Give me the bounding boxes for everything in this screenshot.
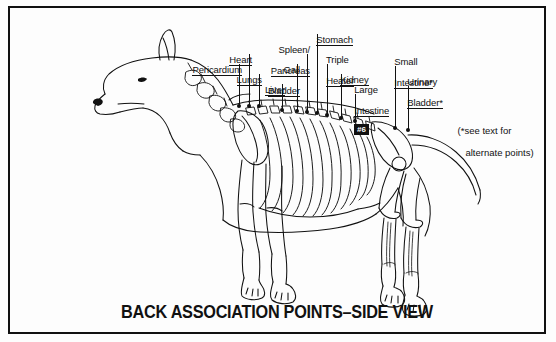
marker-6-badge: #6: [354, 124, 369, 135]
acupoint-dot: [339, 116, 343, 120]
acupoint-dot: [237, 104, 241, 108]
figure-title: BACK ASSOCIATION POINTS–SIDE VIEW: [29, 302, 526, 323]
acupoint-dot: [393, 126, 397, 130]
acupoint-dot: [295, 109, 299, 113]
acupoint-dot: [406, 128, 410, 132]
alternate-points-note: (*see text for alternate points): [447, 114, 534, 169]
acupoint-dot: [325, 113, 329, 117]
acupoint-dot: [315, 111, 319, 115]
figure-border: Pericardium Heart Lungs Spleen/ Pancreas…: [8, 6, 546, 334]
acupoint-dot: [280, 108, 284, 112]
label-liver: Liver: [246, 74, 285, 107]
figure-page: Pericardium Heart Lungs Spleen/ Pancreas…: [0, 0, 556, 342]
label-urinary-bladder: Urinary Bladder*: [397, 66, 443, 120]
acupoint-dot: [305, 110, 309, 114]
label-large-intestine: Large Intestine: [344, 74, 389, 128]
